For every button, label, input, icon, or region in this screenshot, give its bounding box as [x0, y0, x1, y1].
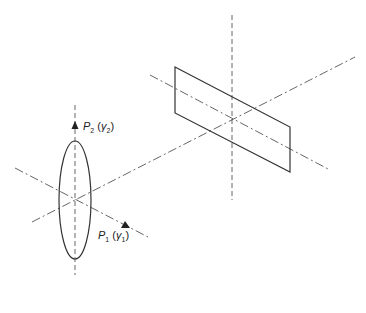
p1-arrow-icon [121, 221, 130, 228]
p1-label: P1 (γ1) [98, 229, 129, 243]
p2-paren-close: ) [110, 120, 114, 132]
p1-paren-close: ) [125, 229, 129, 241]
optical-axis [32, 57, 355, 222]
p2-arrow-icon [72, 121, 79, 129]
plate-cross-axis [150, 75, 330, 170]
p2-label: P2 (γ2) [83, 120, 114, 134]
diagram-canvas: P2 (γ2) P1 (γ1) [0, 0, 366, 313]
p2-paren-open: ( [94, 120, 101, 132]
diagram-svg [0, 0, 366, 313]
p1-paren-open: ( [109, 229, 116, 241]
